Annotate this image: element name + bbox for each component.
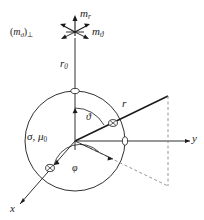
dipole-star-arrowhead-left-down	[61, 35, 67, 39]
label-sigma-mu: σ, μ0	[27, 131, 47, 144]
label-m-r: mr	[80, 8, 91, 21]
label-axis-x: x	[10, 203, 15, 214]
label-m-theta: mϑ	[92, 26, 104, 39]
label-phi-angle: φ	[72, 163, 78, 173]
label-r-zero: r0	[60, 58, 68, 71]
label-m-theta-perp: (mϑ)⊥	[10, 27, 33, 38]
label-axis-y: y	[192, 133, 197, 144]
y-axis-arrowhead	[185, 139, 190, 143]
sphere-top-circle-marker	[71, 88, 79, 93]
x-axis-line	[20, 141, 75, 204]
phi-direction-line	[75, 141, 113, 159]
x-axis-crossed-circle-marker	[46, 164, 55, 171]
label-theta-angle: ϑ	[86, 112, 91, 122]
physics-diagram: mr mϑ (mϑ)⊥ r0 r ϑ φ σ, μ0 y x	[0, 0, 204, 220]
theta-arc-arrowhead	[73, 108, 78, 113]
m-r-arrowhead	[73, 15, 78, 21]
label-r-vector: r	[122, 98, 126, 109]
sphere-y-circle-marker	[122, 137, 127, 145]
ray-crossed-circle-marker	[109, 120, 118, 127]
dipole-star-arrowhead-right-down	[83, 35, 89, 39]
